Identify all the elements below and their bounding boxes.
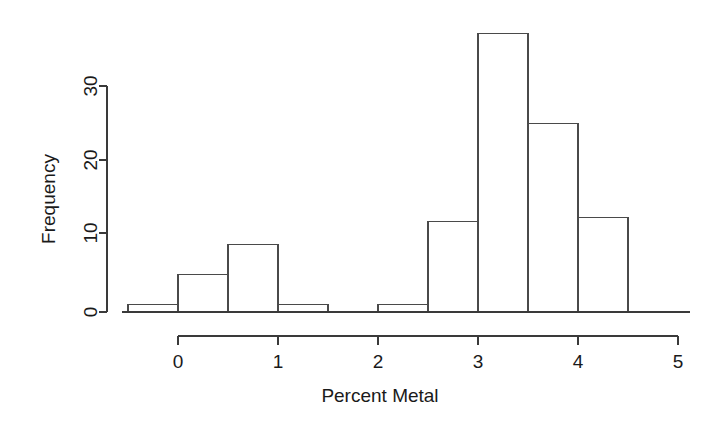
y-tick-label-0: 0 <box>80 307 101 318</box>
bar-series <box>128 33 628 312</box>
histogram-bar <box>578 218 628 312</box>
histogram-bar <box>228 244 278 312</box>
y-tick-label-30: 30 <box>80 75 101 96</box>
y-tick-label-20: 20 <box>80 149 101 170</box>
x-tick-label-0: 0 <box>173 351 184 372</box>
y-axis-title: Frequency <box>38 154 59 244</box>
histogram-bar <box>428 222 478 312</box>
histogram-bar <box>478 33 528 312</box>
histogram-bar <box>178 274 228 312</box>
x-tick-label-1: 1 <box>273 351 284 372</box>
histogram-bar <box>278 304 328 312</box>
y-axis: 0 10 20 30 Frequency <box>38 75 108 317</box>
x-tick-label-2: 2 <box>373 351 384 372</box>
x-tick-label-4: 4 <box>573 351 584 372</box>
histogram-figure: 0 10 20 30 Frequency 0 1 2 3 4 5 Percent… <box>0 0 718 428</box>
y-tick-label-10: 10 <box>80 222 101 243</box>
x-tick-label-5: 5 <box>673 351 684 372</box>
histogram-plot: 0 10 20 30 Frequency 0 1 2 3 4 5 Percent… <box>0 0 718 428</box>
x-tick-label-3: 3 <box>473 351 484 372</box>
histogram-bar <box>528 124 578 312</box>
x-axis-title: Percent Metal <box>321 385 438 406</box>
histogram-bar <box>128 304 178 312</box>
histogram-bar <box>378 304 428 312</box>
x-axis: 0 1 2 3 4 5 Percent Metal <box>173 336 684 406</box>
